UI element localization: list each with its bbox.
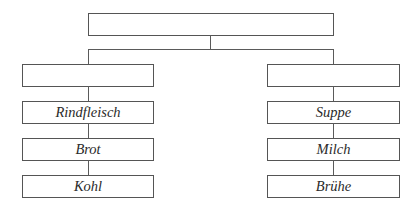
right-header-node [267, 64, 400, 87]
root-connector [210, 35, 211, 49]
right-connector-1 [333, 86, 334, 101]
root-node [88, 13, 334, 36]
right-connector-2 [333, 123, 334, 138]
branch-bar [88, 49, 334, 50]
left-item-node: Rindfleisch [22, 101, 154, 124]
left-item-node: Brot [22, 138, 154, 161]
left-branch-drop [88, 49, 89, 64]
right-connector-3 [333, 160, 334, 175]
left-connector-2 [88, 123, 89, 138]
left-connector-3 [88, 160, 89, 175]
right-item-node: Suppe [267, 101, 400, 124]
right-item-node: Milch [267, 138, 400, 161]
right-item-node: Brühe [267, 175, 400, 198]
right-branch-drop [333, 49, 334, 64]
left-connector-1 [88, 86, 89, 101]
left-item-node: Kohl [22, 175, 154, 198]
left-header-node [22, 64, 154, 87]
